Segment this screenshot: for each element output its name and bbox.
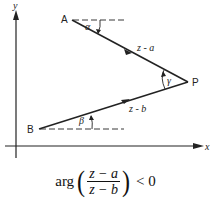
formula-numerator: z − a xyxy=(87,166,120,181)
y-axis-label: y xyxy=(12,0,18,11)
angle-gamma-label: γ xyxy=(167,75,172,86)
formula-denominator: z − b xyxy=(87,182,120,197)
angle-alpha-label: α xyxy=(85,21,91,32)
angle-beta: β xyxy=(78,115,94,129)
vector-z-minus-b: z - b xyxy=(39,82,188,129)
x-axis: x xyxy=(5,141,210,152)
formula-open-paren: ( xyxy=(77,166,85,196)
y-axis-arrow-icon xyxy=(13,10,19,20)
arg-inequality-formula: arg ( z − a z − b ) < 0 xyxy=(0,162,211,200)
complex-plane-diagram: y x z - a z - b α β γ A B P xyxy=(0,0,211,162)
angle-beta-label: β xyxy=(78,115,84,126)
x-axis-label: x xyxy=(204,141,210,152)
formula-fraction: z − a z − b xyxy=(87,166,120,197)
beta-arrow-icon xyxy=(89,115,94,120)
x-axis-arrow-icon xyxy=(193,143,204,149)
gamma-arrow-icon xyxy=(161,71,166,77)
formula-function: arg xyxy=(55,173,74,190)
point-a-label: A xyxy=(61,14,68,25)
point-p-label: P xyxy=(192,77,199,88)
vector-z-minus-b-label: z - b xyxy=(128,103,146,114)
y-axis: y xyxy=(12,0,19,158)
formula-close-paren: ) xyxy=(122,166,130,196)
point-b-label: B xyxy=(27,124,34,135)
formula-relation: < 0 xyxy=(136,173,156,190)
vector-z-minus-a-label: z - a xyxy=(136,42,154,53)
